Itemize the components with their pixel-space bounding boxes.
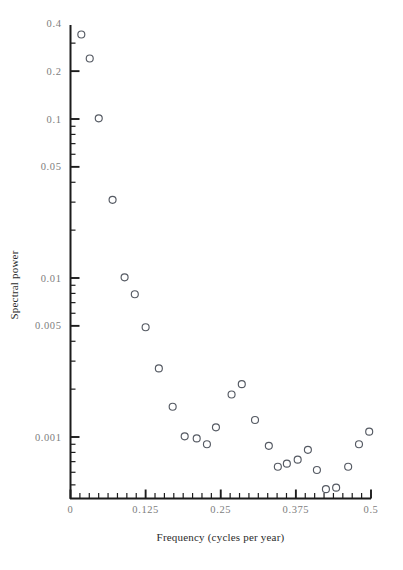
data-point — [181, 433, 188, 440]
data-point — [283, 460, 290, 467]
data-point — [95, 115, 102, 122]
data-point — [274, 463, 281, 470]
data-point — [304, 446, 311, 453]
y-tick-label: 0.2 — [47, 66, 62, 77]
data-point — [169, 403, 176, 410]
y-tick-label: 0.05 — [41, 161, 62, 172]
x-tick-label: 0.25 — [210, 504, 231, 515]
y-axis: 0.40.20.10.050.010.0050.001 — [35, 18, 80, 499]
y-tick-label: 0.001 — [35, 432, 62, 443]
data-point — [131, 291, 138, 298]
data-point — [366, 428, 373, 435]
data-point — [252, 416, 259, 423]
data-point — [109, 196, 116, 203]
data-point — [121, 274, 128, 281]
y-tick-label: 0.1 — [47, 114, 62, 125]
data-point — [294, 456, 301, 463]
x-tick-label: 0.375 — [283, 504, 310, 515]
data-point — [322, 486, 329, 493]
x-tick-label: 0 — [68, 504, 74, 515]
data-point — [212, 424, 219, 431]
data-point-series — [78, 31, 373, 493]
y-tick-label: 0.01 — [41, 273, 62, 284]
data-point — [142, 324, 149, 331]
data-point — [333, 484, 340, 491]
data-point — [78, 31, 85, 38]
chart-canvas: 00.1250.250.3750.5 0.40.20.10.050.010.00… — [0, 0, 403, 570]
x-axis-tick-labels: 00.1250.250.3750.5 — [68, 504, 379, 515]
y-axis-title: Spectral power — [8, 250, 20, 319]
x-tick-label: 0.125 — [132, 504, 159, 515]
data-point — [193, 435, 200, 442]
x-axis-title: Frequency (cycles per year) — [157, 531, 285, 544]
x-axis: 00.1250.250.3750.5 — [68, 490, 379, 515]
y-tick-label: 0.005 — [35, 320, 62, 331]
y-tick-label: 0.4 — [47, 18, 62, 29]
data-point — [238, 381, 245, 388]
data-point — [228, 391, 235, 398]
x-axis-ticks — [71, 490, 372, 499]
data-point — [86, 55, 93, 62]
x-tick-label: 0.5 — [364, 504, 379, 515]
data-point — [313, 467, 320, 474]
data-point — [345, 463, 352, 470]
y-axis-tick-labels: 0.40.20.10.050.010.0050.001 — [35, 18, 62, 443]
data-point — [203, 441, 210, 448]
y-axis-ticks — [71, 43, 80, 485]
data-point — [355, 441, 362, 448]
data-point — [155, 365, 162, 372]
data-point — [265, 442, 272, 449]
spectral-power-scatter-chart: 00.1250.250.3750.5 0.40.20.10.050.010.00… — [0, 0, 403, 570]
